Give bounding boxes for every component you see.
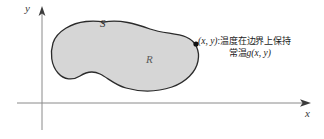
region-interior-label-r: R: [146, 54, 153, 65]
figure-canvas: y x S R (x, y):温度在边界上保持 常温g(x, y): [0, 0, 324, 139]
boundary-point-coordinates: (x, y): [198, 36, 218, 46]
annotation-line-2: 常温g(x, y): [198, 48, 324, 60]
boundary-curve-label-s: S: [100, 18, 106, 29]
annotation-text-line-1: 温度在边界上保持: [220, 36, 290, 46]
y-axis-label: y: [25, 3, 30, 14]
diagram-svg: [0, 0, 324, 139]
x-axis-label: x: [305, 108, 310, 119]
annotation-line-1: (x, y):温度在边界上保持: [198, 36, 324, 48]
region-blob: [51, 21, 198, 91]
boundary-point-annotation: (x, y):温度在边界上保持 常温g(x, y): [198, 36, 324, 59]
annotation-text-line-2: 常温: [229, 48, 247, 58]
boundary-function-g: g(x, y): [247, 48, 271, 58]
